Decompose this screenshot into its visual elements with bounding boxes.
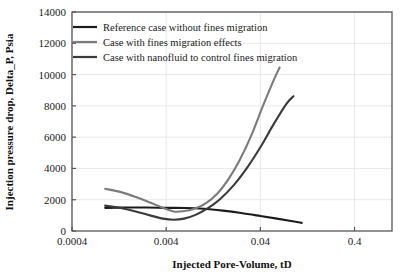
legend-label-2: Case with nanofluid to control fines mig… xyxy=(103,52,298,63)
x-tick-label: 0.0004 xyxy=(57,235,88,247)
x-axis-title: Injected Pore-Volume, tD xyxy=(172,258,292,270)
line-chart: 02000400060008000100001200014000 0.00040… xyxy=(0,0,401,273)
x-tick-label: 0.04 xyxy=(251,235,271,247)
legend-label-1: Case with fines migration effects xyxy=(103,37,242,48)
y-tick-label: 2000 xyxy=(44,194,67,206)
y-tick-label: 14000 xyxy=(39,6,67,18)
y-tick-label: 8000 xyxy=(44,100,67,112)
chart-container: 02000400060008000100001200014000 0.00040… xyxy=(0,0,401,273)
x-tick-label: 0.004 xyxy=(154,235,179,247)
y-axis-title: Injection pressure drop, Delta_P, Psia xyxy=(3,33,15,210)
y-tick-label: 4000 xyxy=(44,162,67,174)
y-tick-label: 6000 xyxy=(44,131,67,143)
legend-label-0: Reference case without fines migration xyxy=(103,22,268,33)
x-tick-label: 0.4 xyxy=(348,235,362,247)
y-tick-label: 12000 xyxy=(39,37,67,49)
y-tick-label: 10000 xyxy=(39,69,67,81)
